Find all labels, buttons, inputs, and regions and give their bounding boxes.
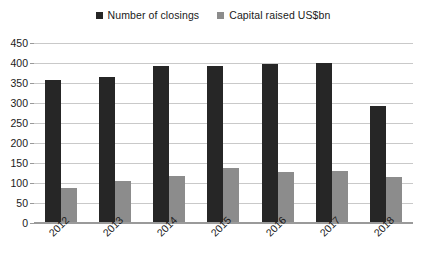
bar-groups <box>34 43 413 223</box>
legend-label: Number of closings <box>108 10 200 21</box>
bar <box>262 64 278 223</box>
x-axis-labels: 2012201320142015201620172018 <box>34 225 413 267</box>
bar <box>316 63 332 223</box>
bar <box>45 80 61 223</box>
y-axis-tick-label: 0 <box>0 218 28 229</box>
y-axis-tick-label: 200 <box>0 138 28 149</box>
x-axis-label-cell: 2014 <box>142 225 196 267</box>
bar <box>153 66 169 223</box>
legend-item-capital-raised: Capital raised US$bn <box>217 10 330 21</box>
x-axis-label-cell: 2012 <box>34 225 88 267</box>
bar-group <box>88 43 142 223</box>
x-axis-label-cell: 2015 <box>196 225 250 267</box>
x-axis-label-cell: 2013 <box>88 225 142 267</box>
y-axis-tick-label: 400 <box>0 58 28 69</box>
bar-group <box>305 43 359 223</box>
y-axis-tick-label: 150 <box>0 158 28 169</box>
bar-group <box>142 43 196 223</box>
bar <box>207 66 223 223</box>
y-axis-tick-label: 350 <box>0 78 28 89</box>
bar <box>370 106 386 223</box>
bar-chart: Number of closings Capital raised US$bn … <box>0 0 426 267</box>
y-axis-tick-label: 450 <box>0 38 28 49</box>
x-axis-label-cell: 2016 <box>251 225 305 267</box>
x-axis-label-cell: 2017 <box>305 225 359 267</box>
y-axis-tick-label: 250 <box>0 118 28 129</box>
bar-group <box>34 43 88 223</box>
legend-label: Capital raised US$bn <box>229 10 330 21</box>
x-axis-label-cell: 2018 <box>359 225 413 267</box>
bar <box>99 77 115 223</box>
legend-item-number-of-closings: Number of closings <box>96 10 200 21</box>
plot-area: 450400350300250200150100500 <box>34 43 413 223</box>
bar-group <box>251 43 305 223</box>
legend-swatch-icon <box>96 12 103 19</box>
chart-legend: Number of closings Capital raised US$bn <box>0 10 426 21</box>
y-axis-tick-label: 50 <box>0 198 28 209</box>
bar-group <box>359 43 413 223</box>
legend-swatch-icon <box>217 12 224 19</box>
y-axis-tick-label: 100 <box>0 178 28 189</box>
y-axis-tick-mark <box>30 223 34 224</box>
bar-group <box>196 43 250 223</box>
y-axis-tick-label: 300 <box>0 98 28 109</box>
